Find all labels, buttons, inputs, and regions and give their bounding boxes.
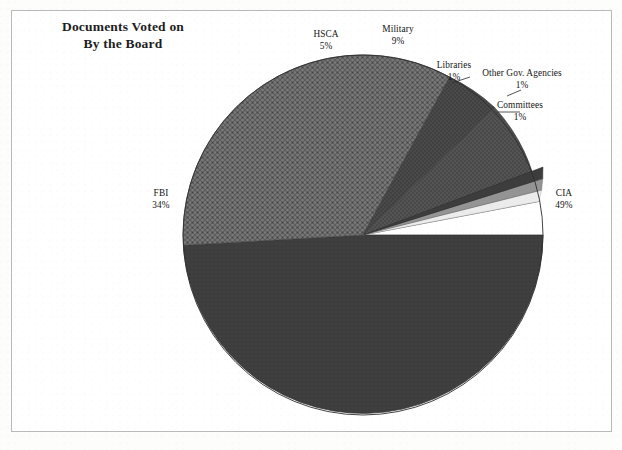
pie-label-hsca-pct: 5%: [303, 41, 349, 53]
pie-label-committees: Committees 1%: [482, 100, 558, 123]
pie-label-committees-name: Committees: [497, 100, 543, 110]
pie-label-cia-name: CIA: [556, 188, 572, 198]
pie-label-hsca: HSCA 5%: [303, 29, 349, 52]
pie-label-cia: CIA 49%: [542, 188, 586, 211]
pie-label-fbi-name: FBI: [154, 188, 169, 198]
pie-slice-cia: [183, 235, 543, 413]
pie-label-other-gov-agencies: Other Gov. Agencies 1%: [470, 68, 574, 91]
pie-label-military-name: Military: [382, 24, 413, 34]
pie-label-libraries-name: Libraries: [437, 60, 471, 70]
pie-label-military-pct: 9%: [372, 36, 424, 48]
pie-label-other-gov-agencies-pct: 1%: [470, 80, 574, 92]
pie-label-hsca-name: HSCA: [313, 29, 338, 39]
pie-label-other-gov-agencies-name: Other Gov. Agencies: [482, 68, 562, 78]
pie-label-fbi: FBI 34%: [139, 188, 183, 211]
pie-label-committees-pct: 1%: [482, 112, 558, 124]
pie-label-military: Military 9%: [372, 24, 424, 47]
chart-title: Documents Voted on By the Board: [28, 18, 218, 52]
chart-page: Documents Voted on By the Board: [0, 0, 622, 450]
pie-label-fbi-pct: 34%: [139, 200, 183, 212]
chart-title-line-1: Documents Voted on: [28, 18, 218, 35]
pie-label-cia-pct: 49%: [542, 200, 586, 212]
chart-title-line-2: By the Board: [28, 35, 218, 52]
